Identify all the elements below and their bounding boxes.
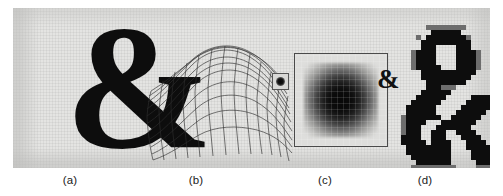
gaussian-blob [304, 63, 378, 137]
kernel-thumbnail-square [272, 73, 289, 90]
scanned-photo-plate: & [13, 8, 490, 168]
panel-c-kernel-image [294, 53, 388, 147]
surface-mesh-svg [143, 30, 293, 166]
caption-b: (b) [166, 174, 226, 186]
small-ampersand-glyph: & [377, 66, 400, 93]
panel-b-gaussian-surface [143, 30, 293, 166]
caption-c: (c) [295, 174, 355, 186]
kernel-thumbnail-dot [276, 77, 285, 86]
caption-d: (d) [395, 174, 455, 186]
figure-container: & [0, 0, 503, 196]
pixelated-ampersand-svg [401, 24, 490, 168]
panel-d-pixelated-glyph [401, 24, 490, 168]
caption-a: (a) [40, 174, 100, 186]
